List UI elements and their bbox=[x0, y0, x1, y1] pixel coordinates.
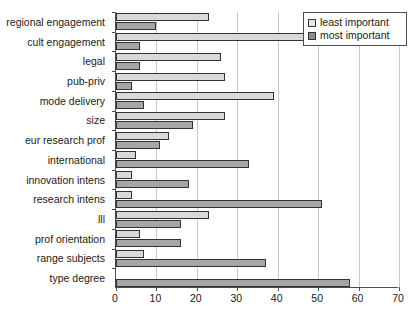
category-label: lll bbox=[98, 214, 105, 225]
x-axis-tick bbox=[197, 287, 198, 291]
bar-least-important bbox=[116, 151, 136, 159]
bar-least-important bbox=[116, 211, 209, 219]
gridline bbox=[237, 12, 238, 287]
bar-most-important bbox=[116, 62, 140, 70]
x-axis-tick-label: 10 bbox=[150, 292, 162, 304]
bar-most-important bbox=[116, 22, 156, 30]
x-axis-tick-label: 50 bbox=[311, 292, 323, 304]
gridline bbox=[318, 12, 319, 287]
category-label: prof orientation bbox=[35, 233, 105, 244]
bar-most-important bbox=[116, 259, 266, 267]
y-axis-tick bbox=[112, 268, 116, 269]
bar-least-important bbox=[116, 112, 225, 120]
chart-legend: least important most important bbox=[303, 12, 407, 46]
bar-most-important bbox=[116, 141, 160, 149]
bar-most-important bbox=[116, 239, 181, 247]
category-label: international bbox=[48, 155, 105, 166]
bar-most-important bbox=[116, 180, 189, 188]
bar-least-important bbox=[116, 73, 225, 81]
legend-label-least-important: least important bbox=[320, 17, 389, 28]
gridline bbox=[359, 12, 360, 287]
legend-swatch-icon-least-important bbox=[308, 19, 316, 27]
x-axis-tick-label: 70 bbox=[392, 292, 404, 304]
bar-least-important bbox=[116, 191, 132, 199]
bar-most-important bbox=[116, 220, 181, 228]
category-label: cult engagement bbox=[27, 36, 105, 47]
bar-most-important bbox=[116, 82, 132, 90]
bar-least-important bbox=[116, 92, 274, 100]
bar-most-important bbox=[116, 42, 140, 50]
legend-item-most-important: most important bbox=[308, 29, 402, 42]
x-axis-tick bbox=[156, 287, 157, 291]
x-axis-tick-label: 40 bbox=[271, 292, 283, 304]
category-label: range subjects bbox=[37, 253, 105, 264]
bar-least-important bbox=[116, 13, 209, 21]
x-axis-tick bbox=[116, 287, 117, 291]
x-axis-tick-label: 0 bbox=[112, 292, 118, 304]
x-axis-tick bbox=[359, 287, 360, 291]
bar-least-important bbox=[116, 33, 306, 41]
bar-most-important bbox=[116, 121, 193, 129]
category-label: size bbox=[86, 115, 105, 126]
x-axis-tick bbox=[278, 287, 279, 291]
x-axis-tick-label: 60 bbox=[352, 292, 364, 304]
category-axis-labels: regional engagementcult engagementlegalp… bbox=[0, 12, 111, 288]
legend-swatch-icon-most-important bbox=[308, 32, 316, 40]
gridline bbox=[278, 12, 279, 287]
bar-least-important bbox=[116, 53, 221, 61]
bar-most-important bbox=[116, 160, 249, 168]
x-axis-tick-label: 30 bbox=[230, 292, 242, 304]
category-label: innovation intens bbox=[26, 174, 105, 185]
legend-item-least-important: least important bbox=[308, 16, 402, 29]
x-axis-tick bbox=[237, 287, 238, 291]
category-label: type degree bbox=[50, 273, 105, 284]
bar-least-important bbox=[116, 250, 144, 258]
bar-most-important bbox=[116, 279, 350, 287]
category-label: mode delivery bbox=[40, 95, 105, 106]
bar-most-important bbox=[116, 101, 144, 109]
bar-least-important bbox=[116, 132, 169, 140]
gridline bbox=[399, 12, 400, 287]
x-axis-tick bbox=[399, 287, 400, 291]
x-axis-tick bbox=[318, 287, 319, 291]
x-axis-tick-label: 20 bbox=[190, 292, 202, 304]
category-label: pub-priv bbox=[67, 76, 105, 87]
bar-most-important bbox=[116, 200, 322, 208]
bar-chart: regional engagementcult engagementlegalp… bbox=[0, 0, 418, 321]
category-label: regional engagement bbox=[6, 17, 105, 28]
plot-area bbox=[115, 12, 398, 288]
bar-least-important bbox=[116, 230, 140, 238]
category-label: legal bbox=[83, 56, 105, 67]
category-label: eur research prof bbox=[25, 135, 105, 146]
legend-label-most-important: most important bbox=[320, 30, 389, 41]
category-label: research intens bbox=[33, 194, 105, 205]
bar-least-important bbox=[116, 171, 132, 179]
